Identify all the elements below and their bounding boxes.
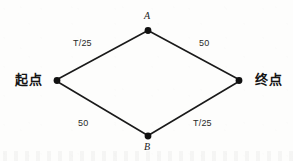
edge-label-start-to-b: 50 <box>78 119 88 128</box>
graph-canvas <box>0 0 293 161</box>
network-diagram: 起点 A B 终点 T/25 50 50 T/25 <box>0 0 293 161</box>
node-a-dot <box>145 27 152 34</box>
node-label-b: B <box>144 142 150 152</box>
node-end-dot <box>236 77 243 84</box>
edge-start-to-b <box>58 82 147 135</box>
edge-label-a-to-end: 50 <box>199 39 209 48</box>
node-start-dot <box>54 77 61 84</box>
node-label-end: 终点 <box>255 73 282 86</box>
edge-label-start-to-a: T/25 <box>73 39 92 48</box>
edge-a-to-end <box>149 31 238 79</box>
edge-label-b-to-end: T/25 <box>193 119 212 128</box>
edge-start-to-a <box>58 31 147 79</box>
node-b-dot <box>145 133 152 140</box>
node-label-a: A <box>144 11 150 21</box>
node-label-start: 起点 <box>15 73 42 86</box>
